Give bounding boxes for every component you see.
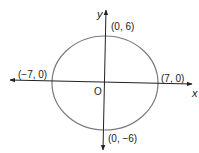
y-axis-label: y: [96, 8, 104, 20]
point-label-bottom: (0, −6): [108, 133, 137, 144]
ellipse-diagram: y x O (0, 6) (0, −6) (−7, 0) (7, 0): [0, 0, 199, 153]
origin-label: O: [94, 86, 102, 97]
point-label-right: (7, 0): [161, 73, 184, 84]
y-axis: [103, 10, 106, 150]
point-label-left: (−7, 0): [18, 69, 47, 80]
point-label-top: (0, 6): [111, 21, 134, 32]
x-axis-label: x: [191, 87, 198, 99]
